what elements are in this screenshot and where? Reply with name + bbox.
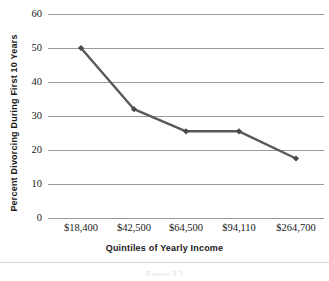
x-tick-label: $64,500 (169, 222, 203, 233)
x-tick-label: $42,500 (117, 222, 151, 233)
gridline-0 (48, 218, 324, 219)
x-axis-tick-labels: $18,400 $42,500 $64,500 $94,110 $264,700 (48, 222, 324, 238)
x-tick-label: $94,110 (222, 222, 256, 233)
data-series-line (48, 14, 324, 218)
y-tick-label: 60 (4, 8, 42, 19)
footer-divider (0, 262, 329, 263)
x-tick-label: $18,400 (64, 222, 98, 233)
y-axis-title: Percent Divorcing During First 10 Years (9, 23, 19, 223)
figure-caption: Figure 3.3 (0, 268, 329, 276)
plot-area (48, 14, 324, 218)
x-tick-label: $264,700 (276, 222, 315, 233)
figure-container: Percent Divorcing During First 10 Years … (0, 0, 329, 281)
x-axis-title: Quintiles of Yearly Income (0, 243, 329, 253)
